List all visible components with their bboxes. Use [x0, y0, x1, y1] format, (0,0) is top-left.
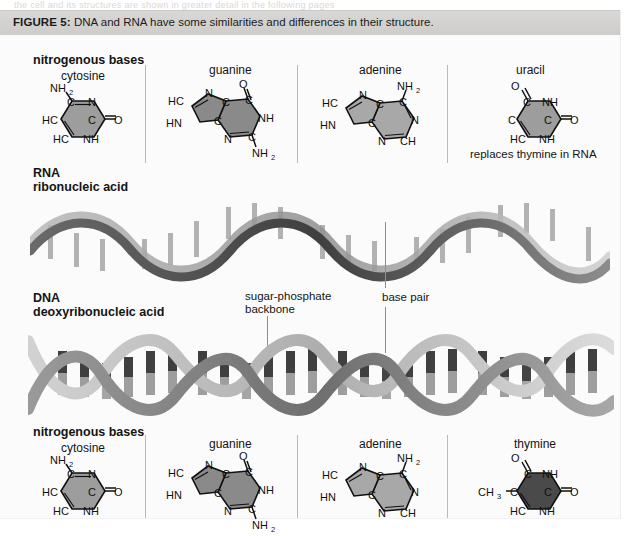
- svg-text:N: N: [411, 114, 419, 126]
- base-label-cytosine-top: cytosine: [61, 69, 105, 83]
- leader-line-base-pair: [385, 222, 386, 288]
- svg-text:NH: NH: [252, 147, 268, 159]
- base-label-uracil-top: uracil: [516, 63, 545, 77]
- svg-text:O: O: [114, 486, 123, 498]
- svg-text:N: N: [205, 87, 213, 99]
- molecule-adenine-top: HC N C C NH2 HN C N N CH: [318, 77, 453, 167]
- svg-text:C: C: [88, 114, 96, 126]
- rna-single-helix: [30, 195, 610, 290]
- svg-text:N: N: [224, 133, 232, 145]
- annotation-base-pair-line1: base pair: [382, 291, 429, 304]
- base-pair-rung: [448, 349, 457, 393]
- dna-double-helix: [28, 323, 614, 427]
- svg-text:2: 2: [416, 458, 420, 467]
- svg-text:C: C: [214, 115, 222, 127]
- svg-text:HC: HC: [42, 486, 58, 498]
- base-label-adenine-top: adenine: [359, 63, 402, 77]
- base-pair-rung: [588, 349, 597, 393]
- svg-text:O: O: [114, 114, 123, 126]
- svg-text:NH: NH: [258, 112, 274, 124]
- svg-text:HN: HN: [320, 119, 336, 131]
- svg-text:C: C: [399, 468, 407, 480]
- figure-plate: nitrogenous bases cytosine NH2 C N HC C …: [0, 35, 620, 518]
- svg-text:O: O: [239, 78, 248, 90]
- svg-text:N: N: [88, 96, 96, 108]
- svg-text:HN: HN: [166, 117, 182, 129]
- svg-text:O: O: [239, 450, 248, 462]
- annotation-sugar-phosphate-line1: sugar-phosphate: [245, 290, 331, 303]
- svg-text:3: 3: [497, 492, 501, 501]
- molecule-cytosine-bottom: NH2 C N HC C O HC NH: [26, 455, 146, 536]
- svg-text:HC: HC: [53, 505, 69, 517]
- figure-caption-body: DNA and RNA have some similarities and d…: [74, 16, 434, 28]
- dna-label-fullname: deoxyribonucleic acid: [33, 305, 164, 319]
- svg-text:C: C: [399, 96, 407, 108]
- svg-text:C: C: [368, 489, 376, 501]
- svg-text:O: O: [511, 80, 520, 92]
- base-label-cytosine-bottom: cytosine: [61, 441, 105, 455]
- svg-text:N: N: [359, 461, 367, 473]
- svg-text:C: C: [214, 487, 222, 499]
- svg-text:HC: HC: [168, 95, 184, 107]
- svg-text:C: C: [524, 468, 532, 480]
- svg-text:HN: HN: [166, 489, 182, 501]
- bottom-nitrogenous-bases-heading: nitrogenous bases: [33, 425, 144, 439]
- svg-text:HC: HC: [168, 467, 184, 479]
- page-ghost-text: the cell and its structures are shown in…: [14, 0, 614, 10]
- svg-text:HN: HN: [320, 491, 336, 503]
- figure-caption-bar: FIGURE 5: DNA and RNA have some similari…: [0, 10, 620, 36]
- figure-caption-label: FIGURE 5:: [13, 16, 71, 28]
- svg-text:N: N: [378, 135, 386, 147]
- base-pair-rung: [286, 351, 295, 395]
- svg-text:NH: NH: [539, 505, 555, 517]
- svg-text:C: C: [523, 96, 531, 108]
- svg-text:2: 2: [416, 86, 420, 95]
- base-pair-rung: [146, 351, 155, 395]
- svg-text:NH: NH: [397, 452, 413, 464]
- svg-text:CH: CH: [400, 507, 416, 519]
- svg-text:NH: NH: [50, 455, 66, 466]
- svg-text:CH: CH: [478, 486, 494, 498]
- svg-text:N: N: [205, 459, 213, 471]
- svg-text:2: 2: [271, 525, 275, 534]
- svg-text:HC: HC: [510, 505, 526, 517]
- base-pair-rung: [308, 349, 317, 393]
- svg-text:HC: HC: [510, 133, 526, 145]
- svg-text:O: O: [511, 452, 520, 464]
- top-nitrogenous-bases-heading: nitrogenous bases: [33, 53, 144, 67]
- svg-text:HC: HC: [322, 97, 338, 109]
- svg-text:NH: NH: [542, 468, 558, 480]
- uracil-note: replaces thymine in RNA: [470, 148, 597, 160]
- svg-text:NH: NH: [83, 133, 99, 145]
- molecule-cytosine-top: NH2 C N HC C O HC NH: [26, 83, 146, 165]
- svg-text:CH: CH: [400, 135, 416, 147]
- base-label-guanine-top: guanine: [209, 63, 252, 77]
- svg-text:NH: NH: [83, 505, 99, 517]
- svg-text:NH: NH: [542, 96, 558, 108]
- svg-text:2: 2: [271, 153, 275, 162]
- base-pair-rung: [124, 357, 133, 397]
- svg-text:NH: NH: [50, 83, 66, 94]
- svg-text:C: C: [245, 94, 253, 106]
- svg-text:HC: HC: [42, 114, 58, 126]
- svg-text:C: C: [245, 466, 253, 478]
- svg-text:N: N: [88, 468, 96, 480]
- annotation-sugar-phosphate-backbone: sugar-phosphate backbone: [245, 290, 331, 315]
- dna-label-abbrev: DNA: [33, 291, 60, 305]
- svg-text:N: N: [411, 486, 419, 498]
- svg-text:C: C: [222, 96, 230, 108]
- svg-text:NH: NH: [397, 80, 413, 92]
- base-pair-rung: [426, 351, 435, 395]
- annotation-base-pair: base pair: [382, 291, 429, 304]
- svg-text:C: C: [67, 96, 75, 108]
- svg-text:C: C: [88, 486, 96, 498]
- svg-text:C: C: [544, 486, 552, 498]
- svg-text:C: C: [376, 98, 384, 110]
- figure-container: FIGURE 5: DNA and RNA have some similari…: [0, 10, 621, 519]
- svg-text:C: C: [510, 486, 518, 498]
- svg-text:C: C: [67, 468, 75, 480]
- molecule-guanine-top: HC N C C O HN C NH N C NH2: [164, 77, 299, 169]
- svg-text:C: C: [376, 470, 384, 482]
- svg-text:NH: NH: [252, 519, 268, 531]
- molecule-thymine-bottom: O C NH CH3 C C O HC NH: [468, 449, 608, 536]
